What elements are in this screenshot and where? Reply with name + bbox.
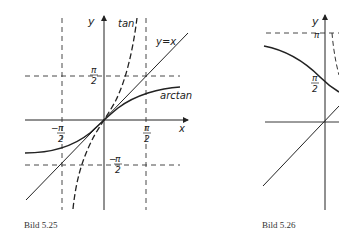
svg-text:π: π [58, 123, 64, 133]
svg-text:2: 2 [91, 76, 97, 86]
figures-canvas: y tan y=x arctan x π 2 − π 2 π 2 − π 2 [0, 0, 339, 234]
svg-text:2: 2 [312, 84, 318, 94]
svg-text:π: π [91, 65, 97, 75]
caption-5-25: Bild 5.25 [24, 220, 58, 230]
x-axis-label: x [178, 123, 185, 134]
y-axis-label: y [87, 15, 95, 28]
caption-5-26: Bild 5.26 [262, 220, 296, 230]
dashed-curve [332, 33, 339, 75]
tan-curve [73, 18, 137, 209]
label-half-pi-2: π 2 [311, 73, 319, 94]
arctan-label: arctan [160, 90, 192, 101]
label-neg-half-pi-lower: − π 2 [109, 154, 122, 175]
arccot-curve [264, 46, 339, 92]
pi-label: π [314, 30, 320, 40]
svg-text:2: 2 [58, 134, 64, 144]
label-neg-half-pi-x: − π 2 [51, 123, 65, 144]
identity-label: y=x [155, 36, 176, 47]
svg-text:2: 2 [115, 165, 121, 175]
tan-label: tan [118, 18, 134, 29]
identity-line-2 [263, 106, 339, 186]
svg-text:π: π [312, 73, 318, 83]
figure-5-26: y π π 2 Bild 5.26 [262, 15, 339, 230]
label-half-pi-upper: π 2 [90, 65, 98, 86]
svg-text:π: π [144, 123, 150, 133]
svg-text:2: 2 [144, 134, 150, 144]
svg-text:π: π [115, 154, 121, 164]
y-axis-label-2: y [311, 15, 319, 28]
figure-5-25: y tan y=x arctan x π 2 − π 2 π 2 − π 2 [24, 15, 192, 230]
label-half-pi-x: π 2 [143, 123, 151, 144]
